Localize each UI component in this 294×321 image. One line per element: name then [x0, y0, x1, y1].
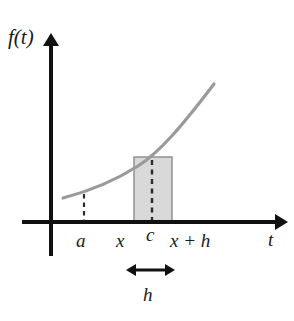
figure-canvas [0, 0, 294, 321]
tick-label-x: x [116, 231, 124, 250]
interval-width-label: h [143, 285, 153, 304]
tick-label-a: a [76, 231, 86, 250]
calculus-figure: f(t) a x c x + h t h [0, 0, 294, 321]
tick-label-x-plus-h: x + h [170, 231, 210, 250]
tick-label-c: c [146, 225, 154, 244]
y-axis-arrowhead [43, 33, 59, 46]
x-axis-label: t [268, 230, 273, 249]
y-axis-label: f(t) [8, 27, 34, 48]
x-axis-arrowhead [275, 214, 288, 230]
h-arrow-left-head [126, 264, 136, 276]
h-arrow-right-head [165, 264, 175, 276]
